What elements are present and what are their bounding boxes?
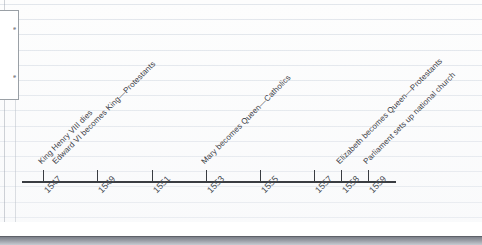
year-label-1547: 1547 [42,174,63,195]
year-label-1551: 1551 [151,174,172,195]
year-label-1558: 1558 [340,174,361,195]
event-label-1558-0: Elizabeth becomes Queen—Protestants [335,57,444,166]
year-label-1559: 1559 [367,174,388,195]
left-cropped-panel[interactable]: e e [0,10,19,100]
year-label-1555: 1555 [259,174,280,195]
left-scan-seam-lower [15,100,16,237]
event-label-1547-1: Edward VI becomes King—Protestants [51,59,158,166]
page-bottom-margin [0,222,482,236]
left-panel-fragment-1: e [13,25,16,31]
timeline-tick-1551 [152,170,153,182]
year-label-1553: 1553 [205,174,226,195]
timeline-tick-1547 [43,170,44,182]
timeline-tick-1549 [97,170,98,182]
scan-bottom-band [0,237,482,245]
timeline-tick-1553 [206,170,207,182]
timeline-tick-1559 [368,170,369,182]
timeline-canvas: e e 15471549155115531555155715581559 Kin… [0,0,482,245]
timeline-tick-1555 [260,170,261,182]
year-label-1557: 1557 [313,174,334,195]
event-label-1553-0: Mary becomes Queen—Catholics [200,73,293,166]
timeline-tick-1558 [341,170,342,182]
year-label-1549: 1549 [96,174,117,195]
left-panel-fragment-2: e [13,73,16,79]
timeline-tick-1557 [314,170,315,182]
